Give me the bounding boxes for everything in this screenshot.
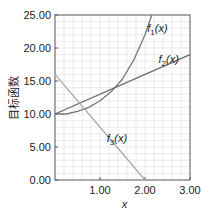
series-line-1 bbox=[55, 15, 152, 114]
series-label-1: f1(x) bbox=[147, 22, 168, 37]
x-axis-label: x bbox=[121, 198, 128, 210]
y-tick-label: 20.00 bbox=[23, 42, 51, 54]
x-tick-label: 2.00 bbox=[134, 184, 155, 196]
y-tick-label: 15.00 bbox=[23, 75, 51, 87]
y-tick-label: 25.00 bbox=[23, 9, 51, 21]
y-tick-label: 0.00 bbox=[30, 174, 51, 186]
y-tick-label: 5.00 bbox=[30, 141, 51, 153]
x-tick-label: 3.00 bbox=[179, 184, 200, 196]
y-axis-label: 目标函数 bbox=[7, 76, 20, 120]
y-tick-label: 10.00 bbox=[23, 108, 51, 120]
chart: 0.005.0010.0015.0020.0025.001.002.003.00… bbox=[0, 0, 210, 215]
x-tick-label: 1.00 bbox=[89, 184, 110, 196]
